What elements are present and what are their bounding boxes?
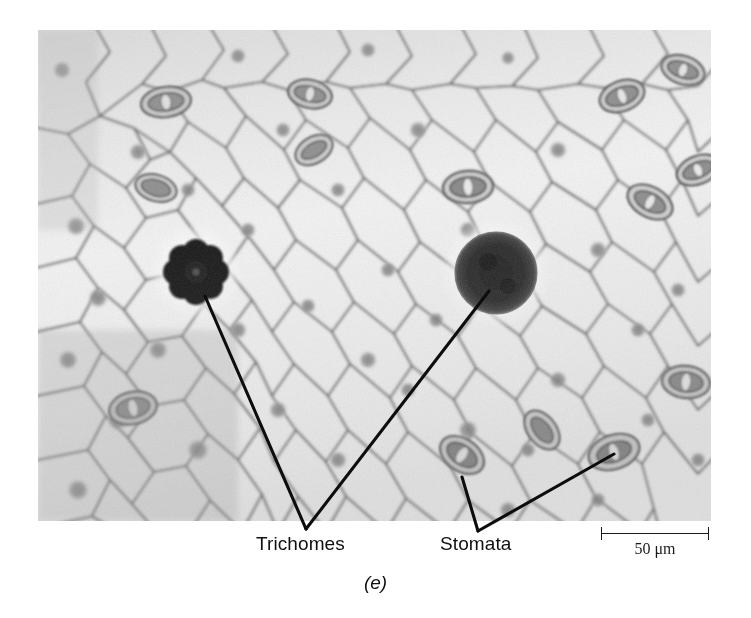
- scale-bar-label: 50 μm: [601, 540, 709, 558]
- film-grain-overlay: [38, 30, 711, 521]
- label-trichomes: Trichomes: [256, 533, 345, 555]
- figure-root: Trichomes Stomata 50 μm (e): [0, 0, 751, 618]
- scale-bar-tick-left: [601, 527, 602, 540]
- micrograph-canvas: [38, 30, 711, 521]
- scale-bar: 50 μm: [601, 526, 711, 562]
- panel-caption: (e): [0, 572, 751, 594]
- scale-bar-line: [601, 533, 709, 534]
- label-stomata: Stomata: [440, 533, 511, 555]
- scale-bar-tick-right: [708, 527, 709, 540]
- micrograph-image: [38, 30, 711, 521]
